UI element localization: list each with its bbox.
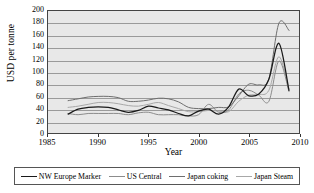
coal-price-chart-figure: USD per tonne 02040608010012014016018020… xyxy=(0,0,314,193)
y-axis-tick-labels: 020406080100120140160180200 xyxy=(16,10,44,134)
legend-item[interactable]: US Central xyxy=(109,172,162,181)
legend-item-label: US Central xyxy=(127,172,162,181)
series-line xyxy=(68,43,289,116)
series-lines xyxy=(48,11,299,133)
y-axis-tick-label: 140 xyxy=(16,43,44,51)
legend-line-swatch xyxy=(236,176,252,177)
x-axis-tick-label: 1985 xyxy=(27,138,67,147)
x-axis-tick-label: 1990 xyxy=(78,138,118,147)
y-axis-tick-label: 120 xyxy=(16,56,44,64)
x-axis-tick-label: 2005 xyxy=(229,138,269,147)
y-axis-tick-label: 80 xyxy=(16,80,44,88)
legend-item[interactable]: Japan coking xyxy=(169,172,228,181)
x-axis-title: Year xyxy=(47,147,300,157)
chart-legend: NW Europe MarkerUS CentralJapan cokingJa… xyxy=(14,167,300,185)
legend-item-label: NW Europe Marker xyxy=(39,172,101,181)
y-axis-tick-label: 40 xyxy=(16,105,44,113)
legend-line-swatch xyxy=(109,176,125,177)
x-axis-tick-label: 2000 xyxy=(179,138,219,147)
legend-item-label: Japan coking xyxy=(187,172,228,181)
y-axis-tick-label: 60 xyxy=(16,93,44,101)
y-axis-tick-label: 160 xyxy=(16,31,44,39)
plot-area xyxy=(47,10,300,134)
y-axis-tick-label: 180 xyxy=(16,18,44,26)
legend-item-label: Japan Steam xyxy=(254,172,293,181)
y-axis-title: USD per tonne xyxy=(6,0,16,108)
x-axis-tick-label: 1995 xyxy=(128,138,168,147)
y-axis-tick-label: 200 xyxy=(16,6,44,14)
y-axis-tick-label: 20 xyxy=(16,118,44,126)
legend-line-swatch xyxy=(169,176,185,177)
legend-item[interactable]: NW Europe Marker xyxy=(21,172,101,181)
legend-line-swatch xyxy=(21,176,37,177)
y-axis-tick-label: 100 xyxy=(16,68,44,76)
x-axis-tick-label: 2010 xyxy=(280,138,314,147)
legend-item[interactable]: Japan Steam xyxy=(236,172,293,181)
series-line xyxy=(68,61,289,116)
